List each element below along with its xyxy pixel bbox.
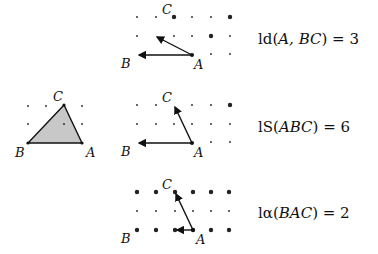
formula-lS: lS(ABC) = 6 — [258, 118, 350, 136]
formula-fn: lS( — [258, 118, 279, 136]
formula-fn: lα( — [258, 204, 279, 222]
label-C: C — [162, 2, 172, 17]
panel-triangle: C B A — [14, 89, 95, 160]
panel-lS: C B A — [120, 90, 232, 160]
formula-args: A, BC — [278, 30, 321, 48]
panel-lalpha: C B A — [120, 177, 231, 247]
point-A — [191, 228, 195, 232]
vector-A-to-point — [157, 37, 192, 55]
grid-dots — [136, 103, 232, 143]
label-C: C — [162, 90, 172, 105]
formula-ld: ld(A, BC) = 3 — [258, 30, 359, 48]
label-B: B — [120, 231, 131, 246]
label-A: A — [193, 145, 203, 160]
formula-value: ) = 3 — [321, 30, 359, 48]
label-C: C — [162, 177, 172, 192]
label-A: A — [195, 232, 205, 247]
label-B: B — [120, 144, 131, 159]
formula-value: ) = 6 — [313, 118, 351, 136]
vector-AC — [176, 194, 193, 230]
label-C: C — [53, 89, 63, 104]
label-B: B — [14, 145, 25, 160]
formula-value: ) = 2 — [312, 204, 350, 222]
vector-AC — [175, 107, 192, 143]
formula-lalpha: lα(BAC) = 2 — [258, 204, 350, 222]
label-B: B — [120, 56, 131, 71]
panel-ld: C B A — [120, 2, 232, 72]
grid-dots — [136, 15, 232, 55]
triangle-ABC — [28, 105, 82, 143]
formula-args: BAC — [279, 204, 312, 222]
grid-dots — [135, 190, 231, 232]
label-A: A — [193, 57, 203, 72]
formula-args: ABC — [279, 118, 313, 136]
formula-fn: ld( — [258, 30, 278, 48]
label-A: A — [85, 145, 95, 160]
